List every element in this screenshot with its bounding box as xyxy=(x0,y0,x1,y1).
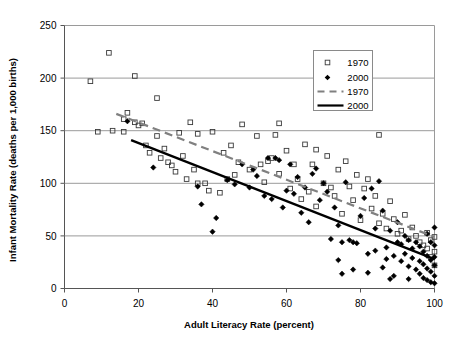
x-tick-label-80: 80 xyxy=(355,298,367,309)
scatter-chart: 050100150200250 020406080100 Infant Mort… xyxy=(0,0,459,339)
y-axis-title: Infant Mortality Rate (deaths per 1,000 … xyxy=(7,58,18,262)
legend-label-0: 1970 xyxy=(347,57,368,68)
y-tick-label-200: 200 xyxy=(40,73,57,84)
legend-label-3: 2000 xyxy=(347,100,368,111)
y-tick-label-100: 100 xyxy=(40,178,57,189)
x-tick-label-100: 100 xyxy=(426,298,443,309)
y-tick-label-50: 50 xyxy=(45,231,57,242)
y-tick-label-250: 250 xyxy=(40,20,57,31)
x-tick-label-20: 20 xyxy=(133,298,145,309)
y-tick-label-0: 0 xyxy=(51,283,57,294)
x-tick-label-60: 60 xyxy=(281,298,293,309)
y-tick-label-150: 150 xyxy=(40,125,57,136)
chart-legend: 1970200019702000 xyxy=(314,51,373,111)
legend-label-2: 1970 xyxy=(347,86,368,97)
x-tick-label-0: 0 xyxy=(62,298,68,309)
chart-container: 050100150200250 020406080100 Infant Mort… xyxy=(0,0,459,339)
x-tick-label-40: 40 xyxy=(207,298,219,309)
x-axis-title: Adult Literacy Rate (percent) xyxy=(184,319,314,330)
legend-label-1: 2000 xyxy=(347,72,368,83)
